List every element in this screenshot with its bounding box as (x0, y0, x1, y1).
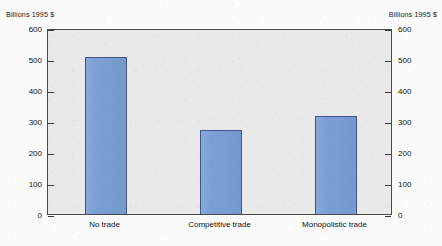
bar-fill (316, 117, 356, 214)
bar-fill (201, 131, 241, 214)
y-tick-left-400 (48, 92, 54, 93)
y-tick-label-right-100: 100 (398, 181, 411, 189)
y-axis-unit-label-right: Billions 1995 $ (389, 10, 437, 19)
x-axis-label: No trade (89, 221, 120, 229)
y-tick-left-500 (48, 61, 54, 62)
y-tick-right-300 (385, 123, 391, 124)
y-tick-right-400 (385, 92, 391, 93)
chart-figure: Billions 1995 $ Billions 1995 $ 01002003… (0, 0, 442, 246)
bar (200, 130, 242, 214)
x-axis-label: Competitive trade (188, 221, 251, 229)
y-tick-label-right-400: 400 (398, 88, 411, 96)
y-tick-left-100 (48, 185, 54, 186)
y-tick-label-right-200: 200 (398, 150, 411, 158)
y-tick-left-200 (48, 154, 54, 155)
y-tick-right-500 (385, 61, 391, 62)
y-tick-label-left-0: 0 (38, 212, 42, 220)
y-tick-right-0 (385, 216, 391, 217)
y-tick-label-left-200: 200 (29, 150, 42, 158)
y-tick-label-right-500: 500 (398, 57, 411, 65)
y-tick-label-left-600: 600 (29, 26, 42, 34)
y-tick-left-300 (48, 123, 54, 124)
y-tick-label-left-100: 100 (29, 181, 42, 189)
y-tick-right-100 (385, 185, 391, 186)
y-tick-label-right-300: 300 (398, 119, 411, 127)
bar-fill (86, 58, 126, 214)
x-axis-label: Monopolistic trade (302, 221, 367, 229)
y-tick-label-left-300: 300 (29, 119, 42, 127)
bar (85, 57, 127, 214)
y-tick-left-0 (48, 216, 54, 217)
y-tick-left-600 (48, 30, 54, 31)
y-axis-unit-label-left: Billions 1995 $ (6, 10, 54, 19)
bar (315, 116, 357, 214)
y-tick-label-left-500: 500 (29, 57, 42, 65)
y-tick-right-600 (385, 30, 391, 31)
y-tick-right-200 (385, 154, 391, 155)
y-tick-label-right-600: 600 (398, 26, 411, 34)
plot-area: 0100200300400500600 0100200300400500600 (47, 29, 392, 215)
y-tick-label-right-0: 0 (398, 212, 402, 220)
y-tick-label-left-400: 400 (29, 88, 42, 96)
